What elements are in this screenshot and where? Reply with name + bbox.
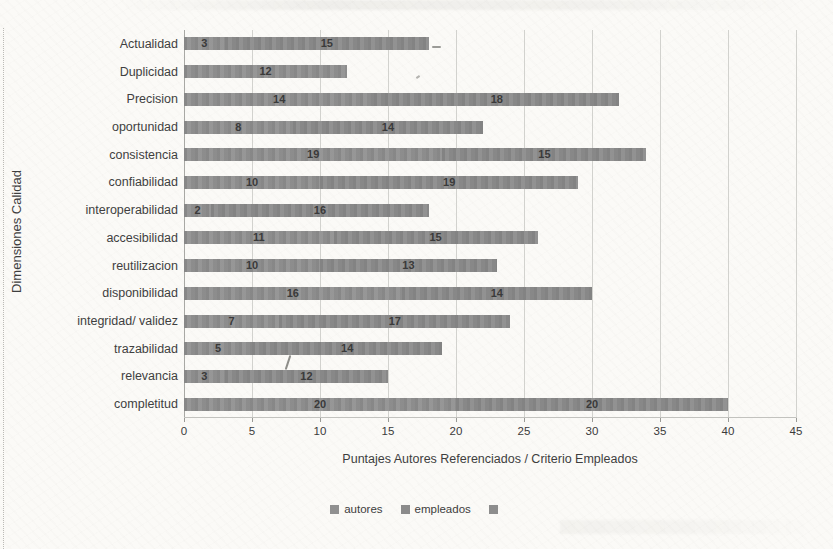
bar-value-label: 20	[456, 398, 728, 411]
x-tick-label: 40	[722, 425, 735, 437]
gridline	[660, 30, 661, 418]
category-label: integridad/ validez	[0, 315, 178, 328]
legend-item	[489, 505, 503, 514]
x-tick-label: 45	[790, 425, 803, 437]
bar-value-label: 3	[184, 370, 225, 383]
x-tick-label: 0	[181, 425, 187, 437]
category-label: disponibilidad	[0, 287, 178, 300]
x-tick-mark	[456, 418, 457, 422]
legend-item: autores	[330, 503, 382, 515]
bar-value-label: 3	[184, 37, 225, 50]
grid-layer	[184, 30, 796, 418]
x-tick-label: 20	[450, 425, 463, 437]
x-tick-mark	[592, 418, 593, 422]
x-tick-mark	[796, 418, 797, 422]
bar-value-label: 17	[279, 315, 510, 328]
gridline	[728, 30, 729, 418]
gridline	[524, 30, 525, 418]
category-label: relevancia	[0, 370, 178, 383]
bar-value-label: 18	[374, 93, 619, 106]
x-tick-label: 5	[249, 425, 255, 437]
gridline	[388, 30, 389, 418]
x-tick-mark	[252, 418, 253, 422]
x-axis-title: Puntajes Autores Referenciados / Criteri…	[342, 452, 637, 466]
bar-value-label: 19	[184, 148, 442, 161]
category-label: Duplicidad	[0, 66, 178, 79]
x-tick-label: 30	[586, 425, 599, 437]
gridline	[320, 30, 321, 418]
bar-value-label: 20	[184, 398, 456, 411]
bar-value-label: 14	[402, 287, 592, 300]
legend-label: autores	[344, 503, 382, 515]
category-label: Precision	[0, 93, 178, 106]
category-label: reutilizacion	[0, 260, 178, 273]
category-label: consistencia	[0, 149, 178, 162]
bar-value-label: 14	[252, 342, 442, 355]
bar-value-label: 19	[320, 176, 578, 189]
y-axis-line	[184, 30, 185, 418]
bar-value-label: 10	[184, 259, 320, 272]
x-tick-label: 25	[518, 425, 531, 437]
category-label: oportunidad	[0, 121, 178, 134]
category-label: confiabilidad	[0, 176, 178, 189]
stacked-bar-chart: Dimensiones Calidad Actualidad315Duplici…	[0, 0, 833, 549]
x-tick-label: 35	[654, 425, 667, 437]
category-label: Actualidad	[0, 38, 178, 51]
bar-value-label: 7	[184, 315, 279, 328]
x-tick-mark	[320, 418, 321, 422]
bar-value-label: 12	[225, 370, 388, 383]
bar-value-label: 15	[442, 148, 646, 161]
x-tick-mark	[524, 418, 525, 422]
category-label: accesibilidad	[0, 232, 178, 245]
x-axis-line	[184, 417, 796, 418]
category-label: interoperabilidad	[0, 204, 178, 217]
legend-swatch	[489, 505, 498, 514]
bar-value-label: 14	[184, 93, 374, 106]
scan-artifact-dash	[432, 46, 441, 48]
bar-value-label: 12	[184, 65, 347, 78]
category-label: trazabilidad	[0, 343, 178, 356]
bar-value-label: 16	[184, 287, 402, 300]
x-tick-mark	[388, 418, 389, 422]
legend: autoresempleados	[0, 503, 833, 515]
bar-value-label: 11	[184, 231, 334, 244]
bar-value-label: 14	[293, 121, 483, 134]
legend-swatch	[401, 505, 410, 514]
category-label: completitud	[0, 398, 178, 411]
bar-value-label: 8	[184, 121, 293, 134]
x-tick-mark	[660, 418, 661, 422]
gridline	[456, 30, 457, 418]
bar-value-label: 10	[184, 176, 320, 189]
bar-value-label: 2	[184, 204, 211, 217]
bar-value-label: 5	[184, 342, 252, 355]
x-tick-label: 10	[314, 425, 327, 437]
bar-value-label: 15	[334, 231, 538, 244]
x-tick-label: 15	[382, 425, 395, 437]
x-tick-mark	[184, 418, 185, 422]
legend-item: empleados	[401, 503, 471, 515]
bar-value-label: 13	[320, 259, 497, 272]
gridline	[796, 30, 797, 418]
legend-label: empleados	[415, 503, 471, 515]
x-tick-mark	[728, 418, 729, 422]
legend-swatch	[330, 505, 339, 514]
gridline	[252, 30, 253, 418]
gridline	[592, 30, 593, 418]
bar-value-label: 15	[225, 37, 429, 50]
bar-value-label: 16	[211, 204, 429, 217]
